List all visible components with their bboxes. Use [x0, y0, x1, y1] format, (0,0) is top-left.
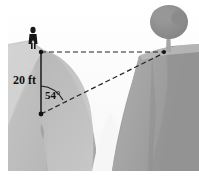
height-label: 20 ft: [13, 73, 36, 87]
person-leg-left: [31, 43, 33, 49]
target-vertex-dot: [162, 50, 166, 54]
diagram-canvas: 20 ft 54°: [0, 0, 199, 183]
tree-canopy-lobe-left: [152, 8, 170, 24]
person-head: [30, 27, 35, 33]
bottom-vertex-dot: [39, 112, 44, 117]
scene-group: 20 ft 54°: [8, 4, 199, 171]
person-leg-right: [34, 43, 36, 49]
top-vertex-dot: [39, 50, 43, 54]
tree-canopy-lobe-right: [171, 11, 187, 25]
angle-label: 54°: [45, 89, 60, 101]
cliff-diagram-svg: 20 ft 54°: [0, 0, 199, 183]
